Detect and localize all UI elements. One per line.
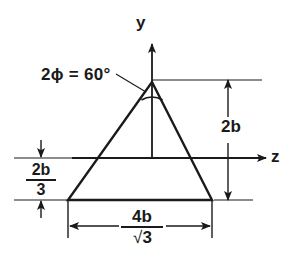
base-width-denominator: √3: [121, 228, 163, 246]
sqrt-wrapper: √3: [132, 229, 152, 246]
figure-canvas: y z 2ϕ = 60° 2b 2b 3 4b √3: [0, 0, 295, 259]
height-dimension-label: 2b: [221, 118, 241, 135]
triangle-outline: [68, 82, 212, 200]
z-axis-label: z: [271, 148, 280, 165]
y-axis-label: y: [136, 14, 145, 31]
apex-angle-label: 2ϕ = 60°: [41, 66, 111, 83]
angle-leader-line: [116, 74, 146, 92]
leader-path: [116, 74, 146, 92]
centroid-offset-fraction: 2b 3: [26, 162, 56, 198]
base-width-numerator: 4b: [121, 208, 163, 226]
triangle-path: [68, 82, 212, 200]
base-width-radicand: 3: [142, 228, 151, 247]
centroid-offset-numerator: 2b: [26, 162, 56, 179]
centroid-offset-denominator: 3: [26, 181, 56, 198]
base-width-fraction: 4b √3: [121, 208, 163, 246]
